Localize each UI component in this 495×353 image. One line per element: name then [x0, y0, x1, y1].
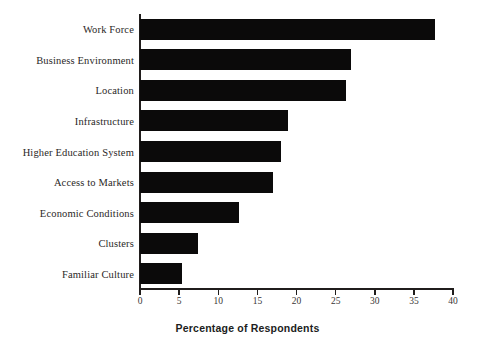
bar [140, 263, 182, 284]
x-axis-title: Percentage of Respondents [0, 322, 495, 334]
bar [140, 202, 239, 223]
bar-row: Business Environment [140, 49, 453, 70]
bar-row: Work Force [140, 19, 453, 40]
bar-row: Access to Markets [140, 172, 453, 193]
bar [140, 49, 351, 70]
x-tick-mark [178, 290, 180, 295]
category-label: Economic Conditions [40, 207, 134, 218]
bar-row: Location [140, 80, 453, 101]
x-tick-label: 25 [331, 296, 341, 306]
x-tick-mark [413, 290, 415, 295]
x-tick-label: 15 [253, 296, 263, 306]
category-label: Familiar Culture [62, 268, 134, 279]
x-tick-mark [374, 290, 376, 295]
category-label: Access to Markets [54, 177, 134, 188]
x-tick-label: 20 [292, 296, 302, 306]
category-label: Higher Education System [23, 146, 134, 157]
x-tick-mark [296, 290, 298, 295]
category-label: Business Environment [36, 54, 134, 65]
x-tick-mark [257, 290, 259, 295]
bar-row: Familiar Culture [140, 263, 453, 284]
x-tick-label: 0 [138, 296, 143, 306]
bar [140, 19, 435, 40]
bar [140, 233, 198, 254]
bar [140, 110, 288, 131]
bar [140, 80, 346, 101]
x-tick-mark [139, 290, 141, 295]
x-tick-label: 5 [177, 296, 182, 306]
x-tick-mark [218, 290, 220, 295]
bar [140, 172, 273, 193]
plot-area: Work ForceBusiness EnvironmentLocationIn… [140, 14, 453, 289]
category-label: Work Force [83, 24, 134, 35]
x-tick-mark [335, 290, 337, 295]
x-tick-label: 30 [370, 296, 380, 306]
bar [140, 141, 281, 162]
x-tick-mark [452, 290, 454, 295]
category-label: Infrastructure [75, 115, 134, 126]
bar-row: Higher Education System [140, 141, 453, 162]
category-label: Location [95, 85, 134, 96]
bar-row: Economic Conditions [140, 202, 453, 223]
x-tick-label: 35 [409, 296, 419, 306]
x-tick-label: 40 [448, 296, 458, 306]
x-tick-label: 10 [214, 296, 224, 306]
bar-row: Infrastructure [140, 110, 453, 131]
horizontal-bar-chart: Work ForceBusiness EnvironmentLocationIn… [0, 0, 495, 353]
bar-row: Clusters [140, 233, 453, 254]
category-label: Clusters [98, 238, 134, 249]
